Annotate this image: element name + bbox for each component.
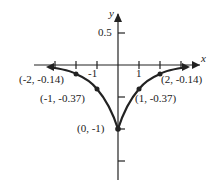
y-tick-label: 0.5 (98, 26, 112, 38)
x-axis-label: x (201, 52, 206, 64)
y-axis-label: y (109, 7, 114, 19)
point-label: (-1, -0.37) (40, 92, 85, 104)
x-tick-label: 1 (136, 67, 142, 79)
point-label: (-2, -0.14) (19, 73, 64, 85)
point-label: (2, -0.14) (161, 73, 202, 85)
point-label: (0, -1) (77, 122, 105, 134)
x-tick-label: -1 (88, 67, 97, 79)
point-label: (1, -0.37) (135, 92, 176, 104)
